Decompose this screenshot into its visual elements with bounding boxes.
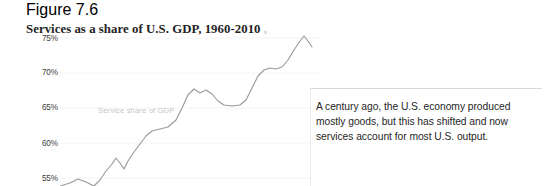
y-tick-label-65: 65% <box>18 103 58 112</box>
figure-number: Figure 7.6 <box>26 1 356 19</box>
y-tick-label-70: 70% <box>18 68 58 77</box>
callout-text: A century ago, the U.S. economy produced… <box>316 99 530 145</box>
chart-region: 75% 70% 65% 60% 55% Service share of GDP <box>0 30 320 186</box>
callout-box: A century ago, the U.S. economy produced… <box>310 88 542 186</box>
series-inline-label: Service share of GDP <box>98 106 174 115</box>
y-tick-label-75: 75% <box>18 34 58 43</box>
y-tick-label-60: 60% <box>18 139 58 148</box>
y-axis: 75% 70% 65% 60% 55% <box>0 30 58 186</box>
y-tick-label-55: 55% <box>18 174 58 183</box>
plot-area: Service share of GDP <box>60 30 320 186</box>
